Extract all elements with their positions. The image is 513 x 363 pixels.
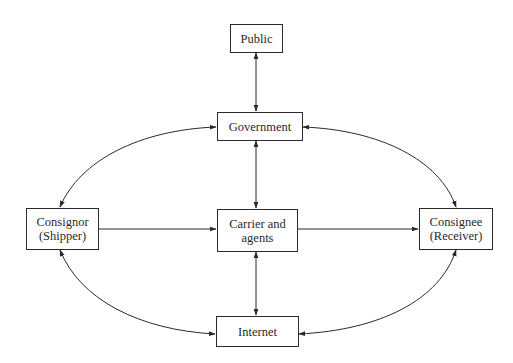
node-government-label: Government [229,120,291,134]
node-government: Government [217,112,303,141]
node-internet: Internet [216,316,299,347]
node-carrier-line1: Carrier and [229,217,286,231]
node-consignor: Consignor (Shipper) [26,208,99,250]
node-public-label: Public [241,32,273,46]
node-consignee-line2: (Receiver) [430,229,483,243]
edge-government-consignor [60,127,216,207]
edge-government-consignee [303,127,456,207]
node-internet-label: Internet [238,325,277,339]
node-carrier-line2: agents [242,231,274,245]
edge-consignee-internet [299,250,456,334]
node-carrier: Carrier and agents [217,209,298,252]
node-consignor-line1: Consignor [36,215,88,229]
node-consignee: Consignee (Receiver) [419,208,493,250]
edge-consignor-internet [60,250,215,334]
connectors-layer [0,0,513,363]
node-consignee-line1: Consignee [430,215,483,229]
node-public: Public [230,24,283,53]
node-consignor-line2: (Shipper) [39,229,86,243]
